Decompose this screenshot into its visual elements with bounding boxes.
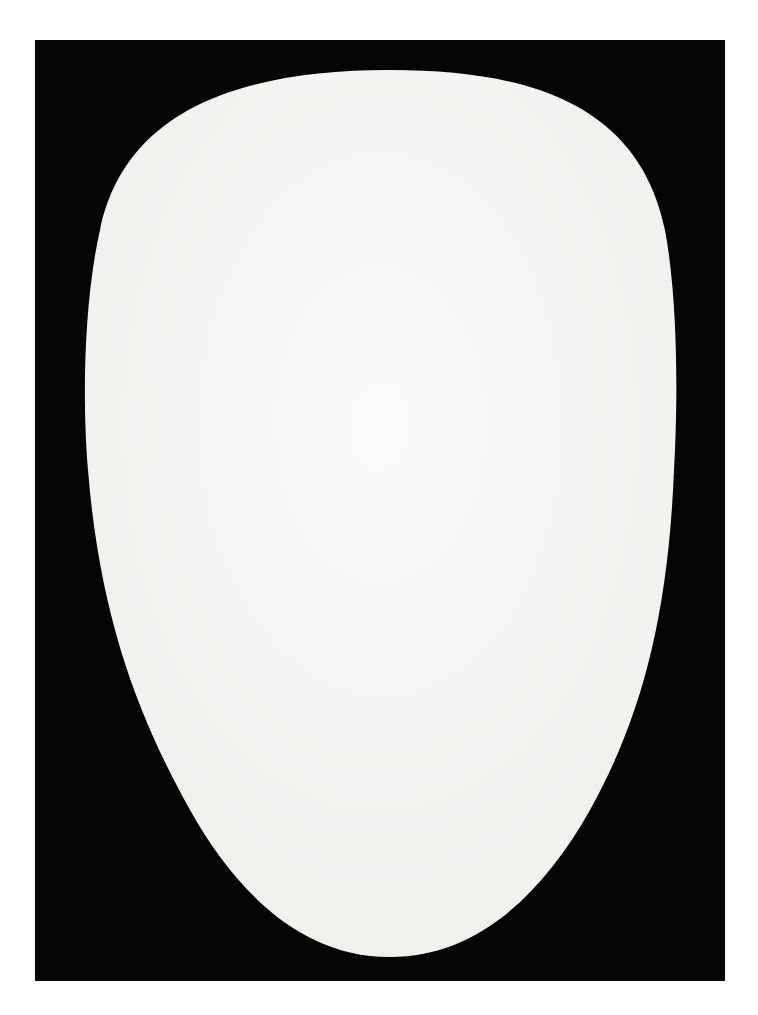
egg-form [85, 70, 676, 957]
artwork-canvas [0, 0, 758, 1015]
